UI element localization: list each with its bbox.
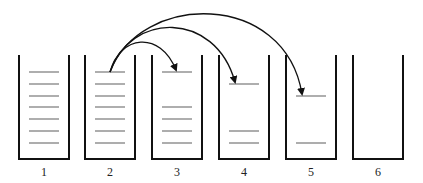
arrows-group (110, 14, 302, 94)
container-label: 4 (241, 165, 247, 179)
containers-group: 123456 (19, 55, 403, 179)
container-wall (353, 55, 403, 159)
container-label: 5 (308, 165, 314, 179)
container-label: 1 (41, 165, 47, 179)
container-label: 6 (375, 165, 381, 179)
arrow-2-to-5 (110, 14, 302, 94)
container-transfer-diagram: 123456 (0, 0, 423, 183)
container-3: 3 (152, 55, 202, 179)
container-5: 5 (286, 55, 336, 179)
container-6: 6 (353, 55, 403, 179)
container-4: 4 (219, 55, 269, 179)
container-1: 1 (19, 55, 69, 179)
container-label: 2 (107, 165, 113, 179)
arrow-2-to-4 (110, 27, 235, 82)
arrow-2-to-3 (110, 42, 176, 72)
container-label: 3 (174, 165, 180, 179)
container-2: 2 (85, 55, 135, 179)
